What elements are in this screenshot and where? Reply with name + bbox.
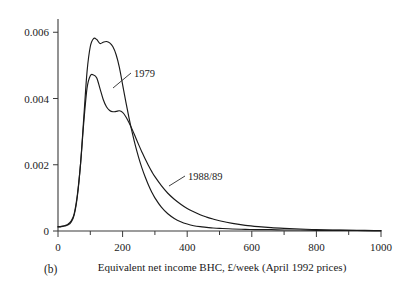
leader-line-1988-89 <box>169 176 185 186</box>
x-tick-label-2: 400 <box>179 241 196 253</box>
y-axis-group: 00.0020.0040.006 <box>24 19 58 237</box>
x-axis-title: Equivalent net income BHC, £/week (April… <box>98 261 347 274</box>
figure-panel: 00.0020.0040.006 02004006008001000 1979 … <box>0 0 402 290</box>
chart-canvas: 00.0020.0040.006 02004006008001000 1979 … <box>0 0 402 290</box>
series-label-1979: 1979 <box>134 68 155 79</box>
y-tick-labels: 00.0020.0040.006 <box>24 26 49 237</box>
x-tick-label-0: 0 <box>55 241 61 253</box>
series-label-1988-89: 1988/89 <box>188 171 222 182</box>
y-tick-marks <box>53 32 58 231</box>
y-tick-label-0: 0 <box>44 225 50 237</box>
x-tick-marks <box>58 231 381 237</box>
panel-label: (b) <box>44 263 58 276</box>
x-tick-label-4: 800 <box>308 241 325 253</box>
y-tick-label-1: 0.002 <box>24 159 49 171</box>
curve-1988-89 <box>58 74 381 230</box>
x-tick-label-3: 600 <box>244 241 261 253</box>
x-tick-labels: 02004006008001000 <box>55 241 392 253</box>
x-tick-label-5: 1000 <box>370 241 393 253</box>
y-tick-label-2: 0.004 <box>24 93 49 105</box>
series-curves <box>58 38 381 231</box>
x-tick-label-1: 200 <box>114 241 131 253</box>
y-tick-label-3: 0.006 <box>24 26 49 38</box>
curve-1979 <box>58 38 381 231</box>
annotation-1988-89: 1988/89 <box>169 171 222 186</box>
annotation-1979: 1979 <box>113 68 155 88</box>
leader-line-1979 <box>113 73 131 88</box>
x-axis-group: 02004006008001000 <box>55 231 392 253</box>
